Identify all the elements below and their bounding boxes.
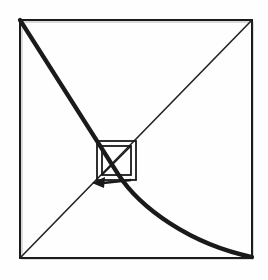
outer-square-frame-shadow [22,22,253,259]
arrow-head-icon [92,177,105,188]
ascending-diagonal-line [20,20,252,258]
geometric-diagram [0,0,268,280]
figure-canvas [0,0,268,280]
figure-caption [0,262,268,280]
